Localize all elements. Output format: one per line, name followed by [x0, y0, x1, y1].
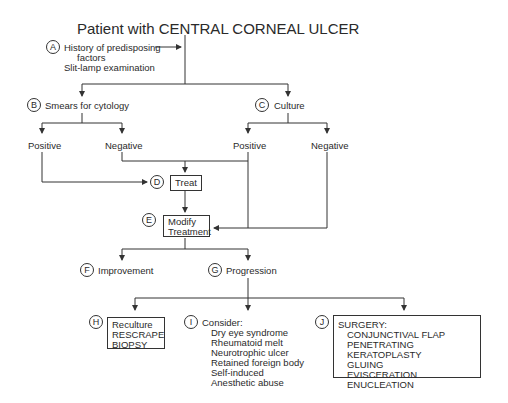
node-f-marker: F [80, 263, 94, 277]
node-c-negative: Negative [311, 141, 349, 151]
node-h-line3: BIOPSY [112, 340, 164, 350]
node-g-marker: G [208, 263, 222, 277]
node-b-marker: B [27, 98, 41, 112]
node-a-marker: A [46, 40, 60, 54]
node-g-label: Progression [226, 266, 277, 276]
node-e-line2: Treatment [168, 227, 209, 237]
node-c-positive: Positive [233, 141, 266, 151]
node-b-label: Smears for cytology [45, 101, 129, 111]
node-f-label: Improvement [98, 266, 153, 276]
node-h-marker: H [89, 315, 103, 329]
node-j-item: PENETRATING KERATOPLASTY [338, 340, 480, 360]
node-c-label: Culture [274, 101, 305, 111]
node-d-box: Treat [170, 175, 202, 191]
node-e-marker: E [142, 213, 156, 227]
node-e-box: Modify Treatment [163, 215, 210, 237]
node-i-marker: I [184, 315, 198, 329]
node-b-positive: Positive [28, 141, 61, 151]
node-d-marker: D [150, 175, 164, 189]
node-j-box: SURGERY: CONJUNCTIVAL FLAP PENETRATING K… [333, 315, 481, 378]
node-d-label: Treat [175, 177, 197, 188]
node-a-line3: Slit-lamp examination [64, 63, 155, 73]
node-b-negative: Negative [105, 141, 143, 151]
node-c-marker: C [255, 98, 269, 112]
node-j-marker: J [315, 315, 329, 329]
node-h-box: Reculture RESCRAPE BIOPSY [107, 317, 165, 349]
node-j-item: ENUCLEATION [338, 380, 480, 390]
flowchart-title: Patient with CENTRAL CORNEAL ULCER [77, 20, 359, 37]
node-i-item: Anesthetic abuse [211, 378, 284, 388]
